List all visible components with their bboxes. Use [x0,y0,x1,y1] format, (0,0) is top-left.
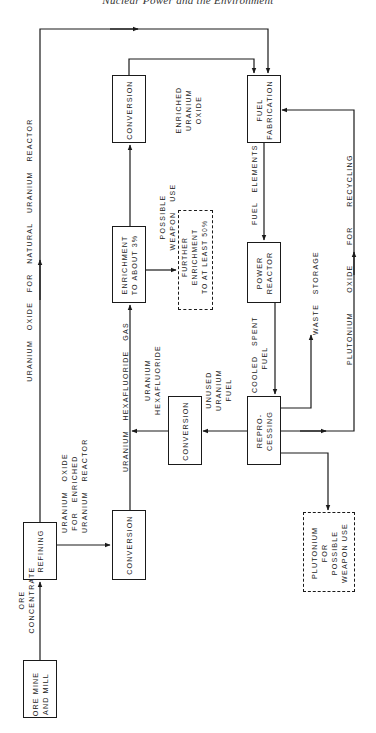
plutonium-weapon-label: PLUTONIUM FOR POSSIBLE WEAPON USE [310,513,350,593]
refining-label: REFINING [36,522,46,580]
ore-mine-label: ORE MINE AND MILL [31,665,51,723]
hexafluoride-gas-label: URANIUM HEXAFLUORIDE GAS [121,342,131,472]
conversion-box-top: CONVERSION [112,75,146,143]
natural-uranium-reactor-label: URANIUM OXIDE FOR NATURAL URANIUM REACTO… [25,110,35,390]
further-enrichment-dashed-box: FURTHER ENRICHMENT TO AT LEAST 50% [178,210,213,310]
conversion-box-bottom: CONVERSION [112,510,146,580]
enrichment-box: ENRICHMENT TO ABOUT 3% [112,226,146,303]
enrichment-label: ENRICHMENT TO ABOUT 3% [120,227,140,304]
further-enrichment-label: FURTHER ENRICHMENT TO AT LEAST 50% [180,207,210,307]
fuel-elements-label: FUEL ELEMENTS [250,155,260,225]
conversion-box-middle: CONVERSION [168,396,202,465]
possible-weapon-use-label: POSSIBLE WEAPON USE [158,182,178,252]
ore-concentrate-label: ORE CONCENTRATE [17,565,37,635]
power-reactor-box: POWER REACTOR [247,242,281,303]
plutonium-oxide-recycling-label: PLUTONIUM OXIDE FOR RECYCLING [345,185,355,365]
enriched-reactor-label: URANIUM OXIDE FOR ENRICHED URANIUM REACT… [60,453,90,533]
unused-uranium-fuel-label: UNUSED URANIUM FUEL [204,365,234,415]
conversion-label-bottom: CONVERSION [125,510,135,580]
enriched-uranium-oxide-label: ENRICHED URANIUM OXIDE [174,85,204,135]
plutonium-weapon-dashed-box: PLUTONIUM FOR POSSIBLE WEAPON USE [303,512,355,592]
power-reactor-label: POWER REACTOR [255,243,275,304]
conversion-label-top: CONVERSION [125,76,135,144]
uranium-hexafluoride-label: URANIUM HEXAFLUORIDE [143,345,163,415]
reprocessing-box: REPRO- CESSING [247,396,281,465]
fuel-fabrication-box: FUEL FABRICATION [247,75,281,143]
ore-mine-and-mill-box: ORE MINE AND MILL [23,660,57,718]
fuel-fabrication-label: FUEL FABRICATION [255,76,275,144]
waste-storage-label: WASTE STORAGE [311,265,321,335]
reprocessing-label: REPRO- CESSING [255,397,275,466]
conversion-label-middle: CONVERSION [181,397,191,466]
cooled-spent-fuel-label: COOLED SPENT FUEL [250,323,270,393]
